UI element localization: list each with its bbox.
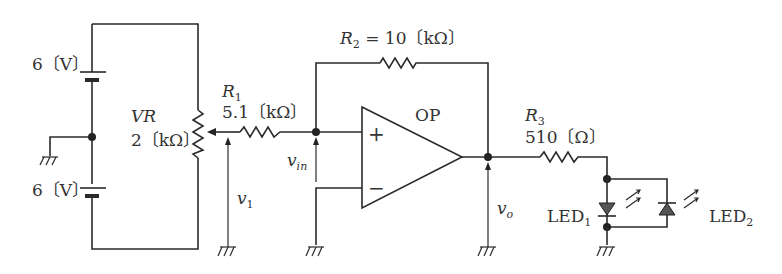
ground-icon [40, 157, 58, 165]
ground-icon [218, 247, 236, 256]
wire-top-left [92, 24, 198, 110]
circuit-diagram: 6〔V〕 6〔V〕 VR 2〔kΩ〕 R1 5.1〔kΩ〕 R2 = 10〔kΩ… [0, 0, 782, 274]
led-1-label: LED1 [547, 208, 591, 228]
r1-name: R1 [222, 83, 242, 103]
ground-icon [478, 247, 496, 256]
battery-1-label: 6〔V〕 [32, 56, 89, 73]
r3-value: 510〔Ω〕 [525, 129, 606, 146]
opamp-label: OP [415, 107, 440, 124]
v1-label: v1 [237, 190, 254, 210]
resistor-r1-icon [240, 127, 316, 137]
vr-value: 2〔kΩ〕 [131, 132, 200, 149]
ground-icon [597, 247, 615, 256]
r3-name: R3 [525, 107, 545, 127]
ground-icon [306, 247, 324, 256]
vr-name: VR [131, 108, 156, 125]
resistor-r3-icon [540, 152, 607, 179]
r2-label: R2 = 10〔kΩ〕 [340, 30, 465, 50]
opamp-minus: − [368, 178, 385, 198]
led-1-icon [598, 190, 640, 216]
r1-value: 5.1〔kΩ〕 [222, 104, 307, 121]
junction-dot [484, 153, 492, 161]
battery-2-label: 6〔V〕 [32, 182, 89, 199]
opamp-plus: + [368, 124, 385, 144]
vin-label: vin [287, 152, 307, 172]
vo-label: vo [497, 200, 513, 220]
led-2-label: LED2 [709, 208, 753, 228]
led-2-icon [658, 190, 698, 215]
